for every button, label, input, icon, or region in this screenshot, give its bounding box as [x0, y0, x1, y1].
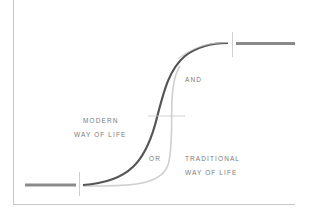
modern-label-line1: MODERN	[83, 114, 119, 128]
s-curve-diagram	[0, 0, 309, 216]
and-label: AND	[185, 73, 202, 87]
traditional-label-line2: WAY OF LIFE	[185, 166, 237, 180]
or-label: OR	[149, 152, 161, 166]
traditional-label-line1: TRADITIONAL	[185, 152, 240, 166]
modern-label-line2: WAY OF LIFE	[74, 128, 126, 142]
